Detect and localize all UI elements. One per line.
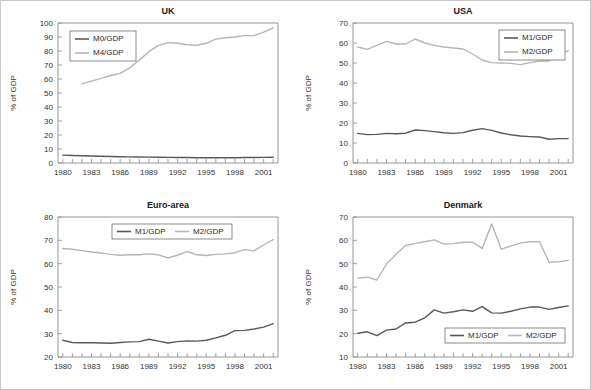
y-tick-label: 60 bbox=[44, 75, 53, 84]
x-tick-label: 1995 bbox=[492, 168, 510, 177]
x-tick-label: 1992 bbox=[464, 362, 482, 371]
y-axis-label-uk: % of GDP bbox=[9, 75, 18, 111]
x-tick-label: 1998 bbox=[521, 362, 539, 371]
x-ticks-euro: 19801983198619891992199519982001 bbox=[54, 353, 273, 371]
x-tick-label: 1989 bbox=[435, 168, 453, 177]
y-tick-label: 60 bbox=[339, 39, 348, 48]
y-tick-label: 20 bbox=[44, 353, 53, 362]
x-tick-label: 1989 bbox=[140, 362, 158, 371]
chart-svg-usa: USA% of GDP01020304050607019801983198619… bbox=[296, 1, 591, 195]
y-tick-label: 40 bbox=[44, 306, 53, 315]
chart-title-usa: USA bbox=[453, 6, 473, 16]
chart-svg-denmark: Denmark% of GDP1020304050607019801983198… bbox=[296, 195, 591, 389]
y-tick-label: 0 bbox=[49, 159, 54, 168]
y-tick-label: 70 bbox=[44, 61, 53, 70]
x-tick-label: 1980 bbox=[54, 168, 72, 177]
legend-label-M1/GDP: M1/GDP bbox=[468, 331, 499, 340]
x-tick-label: 1995 bbox=[197, 168, 215, 177]
x-tick-label: 1989 bbox=[435, 362, 453, 371]
y-ticks-denmark: 10203040506070 bbox=[339, 213, 357, 362]
y-tick-label: 10 bbox=[339, 139, 348, 148]
x-tick-label: 1998 bbox=[521, 168, 539, 177]
y-axis-label-euro: % of GDP bbox=[9, 269, 18, 305]
series-line-denmark-1 bbox=[358, 224, 568, 280]
y-ticks-usa: 010203040506070 bbox=[339, 19, 357, 168]
y-axis-label-usa: % of GDP bbox=[304, 75, 313, 111]
y-tick-label: 80 bbox=[44, 213, 53, 222]
x-tick-label: 1995 bbox=[492, 362, 510, 371]
series-line-uk-0 bbox=[63, 155, 273, 158]
y-tick-label: 10 bbox=[339, 353, 348, 362]
legend-label-M2/GDP: M2/GDP bbox=[526, 331, 557, 340]
y-tick-label: 30 bbox=[339, 306, 348, 315]
y-ticks-euro: 20304050607080 bbox=[44, 213, 62, 362]
y-tick-label: 50 bbox=[44, 89, 53, 98]
x-tick-label: 2001 bbox=[255, 168, 273, 177]
legend-label-M4/GDP: M4/GDP bbox=[93, 48, 124, 57]
chart-panel-euro: Euro-area% of GDP20304050607080198019831… bbox=[1, 195, 296, 389]
y-tick-label: 50 bbox=[339, 59, 348, 68]
y-axis-label-denmark: % of GDP bbox=[304, 269, 313, 305]
y-tick-label: 70 bbox=[339, 19, 348, 28]
legend-uk: M0/GDPM4/GDP bbox=[70, 31, 136, 61]
figure-container: UK% of GDP010203040506070809010019801983… bbox=[0, 0, 591, 390]
legend-label-M2/GDP: M2/GDP bbox=[522, 47, 553, 56]
x-tick-label: 1983 bbox=[83, 168, 101, 177]
y-tick-label: 20 bbox=[339, 330, 348, 339]
y-tick-label: 40 bbox=[339, 79, 348, 88]
y-tick-label: 90 bbox=[44, 33, 53, 42]
legend-label-M2/GDP: M2/GDP bbox=[193, 227, 224, 236]
y-tick-label: 70 bbox=[339, 213, 348, 222]
y-tick-label: 30 bbox=[339, 99, 348, 108]
chart-title-uk: UK bbox=[162, 6, 175, 16]
x-tick-label: 1986 bbox=[406, 362, 424, 371]
x-tick-label: 1980 bbox=[54, 362, 72, 371]
x-ticks-uk: 19801983198619891992199519982001 bbox=[54, 159, 273, 177]
y-tick-label: 60 bbox=[339, 236, 348, 245]
x-tick-label: 1998 bbox=[226, 362, 244, 371]
x-tick-label: 1980 bbox=[349, 168, 367, 177]
x-tick-label: 1983 bbox=[378, 168, 396, 177]
y-tick-label: 30 bbox=[44, 117, 53, 126]
y-tick-label: 40 bbox=[339, 283, 348, 292]
y-tick-label: 20 bbox=[339, 119, 348, 128]
legend-label-M1/GDP: M1/GDP bbox=[135, 227, 166, 236]
x-tick-label: 1986 bbox=[406, 168, 424, 177]
y-tick-label: 40 bbox=[44, 103, 53, 112]
legend-label-M0/GDP: M0/GDP bbox=[93, 34, 124, 43]
x-tick-label: 1989 bbox=[140, 168, 158, 177]
x-tick-label: 2001 bbox=[550, 168, 568, 177]
chart-panel-denmark: Denmark% of GDP1020304050607019801983198… bbox=[296, 195, 591, 389]
y-tick-label: 30 bbox=[44, 330, 53, 339]
x-tick-label: 1992 bbox=[169, 362, 187, 371]
chart-title-euro: Euro-area bbox=[147, 200, 190, 210]
legend-denmark: M1/GDPM2/GDP bbox=[445, 328, 565, 343]
y-tick-label: 20 bbox=[44, 131, 53, 140]
x-tick-label: 1983 bbox=[83, 362, 101, 371]
x-tick-label: 1995 bbox=[197, 362, 215, 371]
chart-title-denmark: Denmark bbox=[444, 200, 484, 210]
legend-euro: M1/GDPM2/GDP bbox=[112, 224, 232, 239]
x-tick-label: 1986 bbox=[111, 168, 129, 177]
x-tick-label: 1998 bbox=[226, 168, 244, 177]
y-tick-label: 80 bbox=[44, 47, 53, 56]
x-tick-label: 1980 bbox=[349, 362, 367, 371]
legend-label-M1/GDP: M1/GDP bbox=[522, 33, 553, 42]
y-tick-label: 50 bbox=[339, 260, 348, 269]
x-tick-label: 1992 bbox=[464, 168, 482, 177]
y-tick-label: 100 bbox=[40, 19, 54, 28]
y-tick-label: 50 bbox=[44, 283, 53, 292]
y-ticks-uk: 0102030405060708090100 bbox=[40, 19, 62, 168]
y-tick-label: 70 bbox=[44, 236, 53, 245]
x-ticks-denmark: 19801983198619891992199519982001 bbox=[349, 353, 568, 371]
series-line-euro-0 bbox=[63, 324, 273, 344]
chart-svg-euro: Euro-area% of GDP20304050607080198019831… bbox=[1, 195, 296, 389]
chart-panel-usa: USA% of GDP01020304050607019801983198619… bbox=[296, 1, 591, 195]
chart-panel-uk: UK% of GDP010203040506070809010019801983… bbox=[1, 1, 296, 195]
series-line-usa-0 bbox=[358, 129, 568, 140]
y-tick-label: 10 bbox=[44, 145, 53, 154]
x-tick-label: 1986 bbox=[111, 362, 129, 371]
x-tick-label: 2001 bbox=[255, 362, 273, 371]
y-tick-label: 0 bbox=[344, 159, 349, 168]
x-tick-label: 1992 bbox=[169, 168, 187, 177]
